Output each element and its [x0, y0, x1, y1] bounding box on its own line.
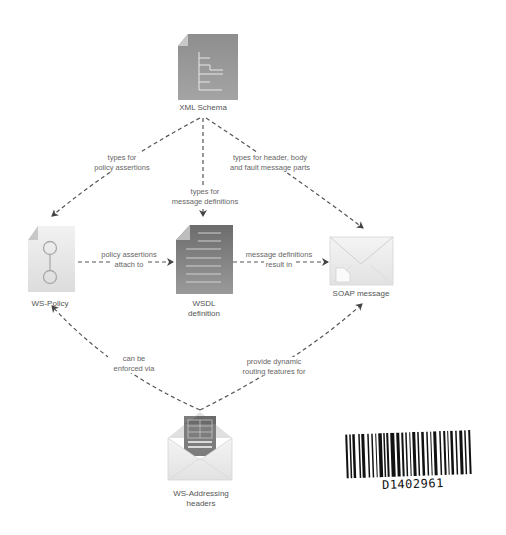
edge-label-schema-policy: types for policy assertions [86, 153, 158, 172]
schema-document-icon [178, 34, 238, 100]
edge-label-line: provide dynamic [238, 357, 310, 367]
node-label-ws-addressing: WS-Addressing headers [164, 489, 238, 509]
edge-label-line: attach to [113, 260, 146, 270]
envelope-icon [330, 237, 393, 285]
node-label-ws-policy: WS-Policy [20, 299, 80, 309]
edge-label-wsdl-soap: message definitions result in [242, 250, 316, 269]
node-label-ws-addressing-line2: headers [164, 499, 238, 509]
edge-label-line: and fault message parts [227, 163, 313, 173]
node-label-wsdl-line2: definition [174, 309, 234, 319]
edge-label-line: message definitions [243, 250, 315, 260]
edge-label-line: can be [109, 354, 159, 364]
edge-schema-soap [206, 118, 363, 228]
policy-document-icon [28, 226, 75, 292]
edge-label-line: result in [264, 260, 294, 270]
wsdl-document-icon [176, 225, 233, 294]
node-label-xml-schema: XML Schema [173, 103, 233, 113]
edge-label-line: routing features for [238, 367, 310, 377]
edge-label-line: types for [87, 153, 157, 163]
edge-label-addressing-policy: can be enforced via [108, 354, 160, 373]
edge-label-line: policy assertions [87, 163, 157, 173]
edge-label-addressing-soap: provide dynamic routing features for [237, 357, 311, 376]
edge-label-line: message definitions [169, 197, 241, 207]
edge-label-line: policy assertions [97, 250, 161, 260]
edge-label-line: types for header, body [227, 153, 313, 163]
edge-label-schema-soap: types for header, body and fault message… [226, 153, 314, 172]
node-label-wsdl: WSDL definition [174, 299, 234, 319]
edge-label-schema-wsdl: types for message definitions [168, 187, 242, 206]
edge-label-policy-wsdl: policy assertions attach to [96, 250, 162, 269]
edge-label-line: enforced via [109, 364, 159, 374]
edge-label-line: types for [169, 187, 241, 197]
diagram-canvas: XML Schema WS-Policy WSDL definition SOA… [0, 0, 506, 535]
open-envelope-icon [168, 412, 232, 480]
barcode-text: D1402961 [382, 476, 444, 492]
node-label-soap: SOAP message [326, 289, 396, 299]
node-label-wsdl-line1: WSDL [174, 299, 234, 309]
node-label-ws-addressing-line1: WS-Addressing [164, 489, 238, 499]
barcode [343, 430, 485, 483]
